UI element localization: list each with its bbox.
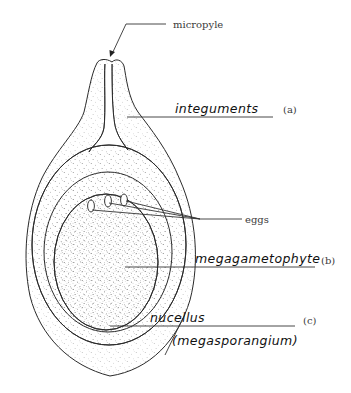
- ovule-diagram: micropyle integuments (a) eggs megagamet…: [0, 0, 351, 393]
- label-nucellus: nucellus: [150, 310, 205, 325]
- egg-2: [105, 195, 112, 207]
- label-integuments-tag: (a): [283, 104, 297, 115]
- arrow-head-icon: [110, 50, 116, 57]
- label-integuments: integuments: [175, 101, 259, 116]
- label-megasporangium: (megasporangium): [172, 333, 298, 348]
- label-micropyle: micropyle: [173, 19, 223, 30]
- label-nucellus-tag: (c): [303, 315, 317, 326]
- label-megagametophyte-tag: (b): [321, 255, 335, 266]
- egg-3: [121, 194, 128, 206]
- label-eggs: eggs: [245, 214, 269, 225]
- label-megagametophyte: megagametophyte: [195, 251, 320, 266]
